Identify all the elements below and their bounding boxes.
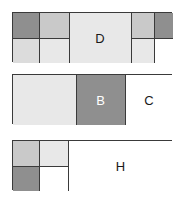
diagram-canvas: DBCH (0, 0, 183, 200)
cell-divider-horizontal (154, 38, 173, 39)
cell-b-label: B (96, 94, 105, 107)
cell-z2[interactable] (39, 141, 68, 166)
cell-divider-vertical (69, 13, 70, 63)
panel-bottom: H (12, 140, 172, 190)
cell-c[interactable]: C (125, 75, 173, 125)
cell-divider-vertical (68, 141, 69, 191)
cell-divider-horizontal (13, 166, 39, 167)
cell-divider-horizontal (131, 38, 154, 39)
cell-a6[interactable] (131, 38, 154, 63)
cell-z1[interactable] (13, 141, 39, 166)
cell-h[interactable]: H (68, 141, 173, 191)
cell-h-label: H (116, 160, 125, 173)
cell-d[interactable]: D (69, 13, 131, 63)
cell-m1[interactable] (13, 75, 76, 125)
cell-a2[interactable] (39, 13, 69, 38)
cell-b[interactable]: B (76, 75, 125, 125)
cell-a5[interactable] (131, 13, 154, 38)
panel-top: D (12, 12, 172, 62)
cell-divider-vertical (76, 75, 77, 125)
cell-divider-vertical (125, 75, 126, 125)
cell-a4[interactable] (39, 38, 69, 63)
panel-middle: BC (12, 74, 172, 124)
cell-divider-horizontal (39, 38, 69, 39)
cell-a8[interactable] (154, 38, 173, 63)
cell-divider-horizontal (13, 38, 39, 39)
cell-z4[interactable] (39, 166, 68, 191)
cell-a1[interactable] (13, 13, 39, 38)
cell-d-label: D (95, 32, 104, 45)
cell-a7[interactable] (154, 13, 173, 38)
cell-a3[interactable] (13, 38, 39, 63)
cell-c-label: C (144, 94, 153, 107)
cell-z3[interactable] (13, 166, 39, 191)
cell-divider-horizontal (39, 166, 68, 167)
